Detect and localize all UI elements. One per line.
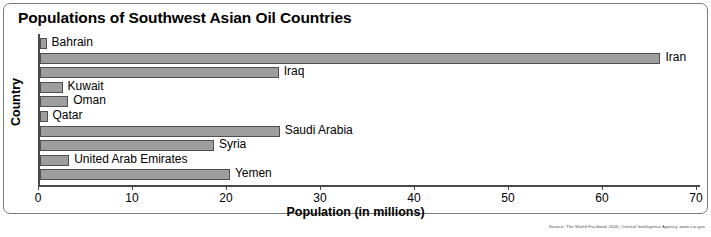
x-axis-tick-label: 30: [300, 191, 340, 205]
bar-label: Bahrain: [52, 35, 93, 49]
bar: [40, 96, 68, 107]
x-axis-tick: [38, 185, 39, 190]
bar-label: Qatar: [53, 108, 83, 122]
bar: [40, 38, 47, 49]
x-axis-tick: [696, 185, 697, 190]
x-axis-line: [38, 185, 700, 187]
bar: [40, 111, 48, 122]
x-axis-tick-label: 60: [582, 191, 622, 205]
bar-label: Iraq: [284, 64, 305, 78]
bar: [40, 126, 280, 137]
bar-label: Yemen: [235, 166, 272, 180]
bar-label: United Arab Emirates: [74, 152, 187, 166]
bar-label: Syria: [219, 137, 246, 151]
x-axis-tick: [414, 185, 415, 190]
x-axis-tick: [320, 185, 321, 190]
x-axis-tick: [508, 185, 509, 190]
bar-label: Kuwait: [68, 79, 104, 93]
bar: [40, 53, 660, 64]
x-axis-tick: [132, 185, 133, 190]
x-axis-tick-label: 70: [676, 191, 711, 205]
plot-area: BahrainIranIraqKuwaitOmanQatarSaudi Arab…: [38, 34, 696, 185]
y-axis-title: Country: [9, 72, 23, 132]
bar: [40, 140, 214, 151]
bar: [40, 155, 69, 166]
chart-title: Populations of Southwest Asian Oil Count…: [18, 9, 351, 27]
bar-label: Oman: [73, 93, 106, 107]
x-axis-tick: [602, 185, 603, 190]
chart-figure: Populations of Southwest Asian Oil Count…: [0, 0, 711, 237]
x-axis-tick: [226, 185, 227, 190]
x-axis-tick-label: 50: [488, 191, 528, 205]
bar: [40, 169, 230, 180]
x-axis-tick-label: 20: [206, 191, 246, 205]
bar-label: Iran: [665, 50, 686, 64]
x-axis-tick-label: 40: [394, 191, 434, 205]
bar: [40, 82, 63, 93]
bar-label: Saudi Arabia: [285, 123, 353, 137]
bar: [40, 67, 279, 78]
x-axis-tick-label: 10: [112, 191, 152, 205]
source-note: Source: The World Factbook 2005, Central…: [549, 224, 705, 229]
x-axis-tick-label: 0: [18, 191, 58, 205]
x-axis-title: Population (in millions): [0, 205, 711, 219]
